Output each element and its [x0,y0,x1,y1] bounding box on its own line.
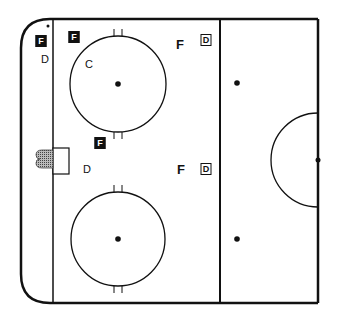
player-marker-c: C [85,59,93,70]
bottom-faceoff-dot [115,236,121,242]
neutral-dot-bottom [234,236,240,242]
player-marker-f: F [36,35,47,47]
player-marker-f: F [177,163,185,176]
hockey-rink-diagram [0,0,343,321]
player-marker-f: F [176,38,184,51]
goal-crease [53,148,69,174]
center-circle [271,113,318,207]
player-marker-d: D [83,164,91,175]
player-marker-d: D [201,34,212,46]
top-faceoff-dot [115,81,121,87]
goal-net [36,150,53,168]
corner-dot [47,25,50,28]
player-marker-f: F [69,31,80,43]
player-marker-f: F [95,137,106,149]
center-dot [316,158,321,163]
player-marker-d: D [201,163,212,175]
player-marker-d: D [41,54,49,65]
neutral-dot-top [234,80,240,86]
